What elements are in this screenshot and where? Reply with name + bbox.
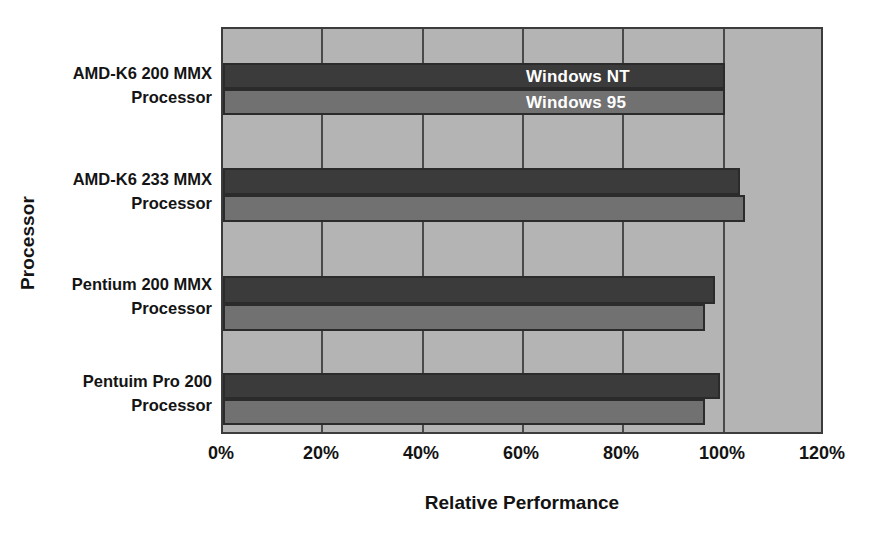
y-tick-label-2: Pentium 200 MMX Processor [0,273,221,321]
y-tick-label-0: AMD-K6 200 MMX Processor [0,62,221,110]
plot-area: Windows NT Windows 95 [221,27,823,434]
y-tick-label-3: Pentuim Pro 200 Processor [0,370,221,418]
bar-amd-k6-200-mmx-windows-95 [223,89,725,115]
y-tick-label-2-line2: Processor [0,297,212,321]
y-tick-label-3-line1: Pentuim Pro 200 [83,372,212,390]
bar-pentium-200-mmx-windows-95 [223,304,705,331]
x-tick-label-80: 80% [576,443,666,464]
y-tick-label-3-line2: Processor [0,394,212,418]
legend-label-windows-nt: Windows NT [526,67,630,87]
x-tick-label-100: 100% [677,443,767,464]
x-tick-label-20: 20% [276,443,366,464]
bar-amd-k6-233-mmx-windows-95 [223,195,745,222]
y-tick-label-1-line1: AMD-K6 233 MMX [73,170,212,188]
y-tick-label-2-line1: Pentium 200 MMX [72,275,212,293]
legend-label-windows-95: Windows 95 [526,93,626,113]
bar-pentuim-pro-200-windows-95 [223,399,705,425]
x-tick-label-0: 0% [176,443,266,464]
bar-amd-k6-233-mmx-windows-nt [223,168,740,195]
y-tick-label-1: AMD-K6 233 MMX Processor [0,168,221,216]
y-tick-label-1-line2: Processor [0,192,212,216]
x-axis-title: Relative Performance [221,492,823,514]
x-tick-label-120: 120% [777,443,867,464]
bar-amd-k6-200-mmx-windows-nt [223,63,725,89]
x-tick-label-40: 40% [376,443,466,464]
bar-chart: Processor AMD-K6 200 MMX Processor AMD-K… [0,0,873,535]
y-tick-label-0-line2: Processor [0,86,212,110]
x-tick-label-60: 60% [476,443,566,464]
y-tick-label-0-line1: AMD-K6 200 MMX [73,64,212,82]
bar-pentium-200-mmx-windows-nt [223,276,715,304]
bar-pentuim-pro-200-windows-nt [223,373,720,399]
